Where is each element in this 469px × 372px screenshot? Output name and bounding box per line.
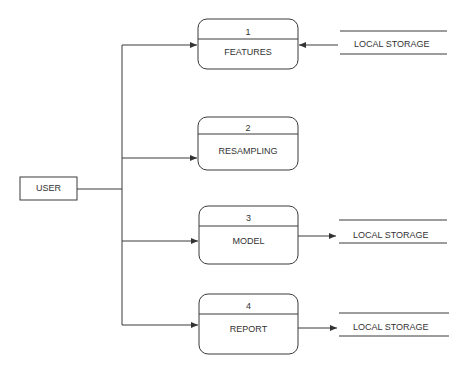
process-1-number: 1 — [198, 27, 298, 37]
process-3-number: 3 — [199, 213, 298, 223]
user-entity-label: USER — [20, 183, 77, 193]
store-2-label: LOCAL STORAGE — [353, 230, 429, 240]
store-3-label: LOCAL STORAGE — [353, 322, 429, 332]
process-1-label: FEATURES — [198, 47, 298, 57]
process-2-number: 2 — [198, 123, 298, 133]
process-4-label: REPORT — [199, 324, 298, 334]
process-4-number: 4 — [199, 301, 298, 311]
store-1-label: LOCAL STORAGE — [354, 39, 430, 49]
process-2-label: RESAMPLING — [198, 146, 298, 156]
process-3-label: MODEL — [199, 236, 298, 246]
